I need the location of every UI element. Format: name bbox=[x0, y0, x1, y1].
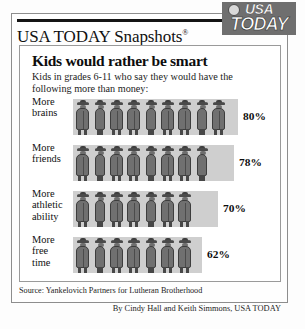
person-in-hat-and-coat-icon bbox=[176, 237, 193, 273]
row-label-line: friends bbox=[32, 153, 74, 164]
registered-mark: ® bbox=[182, 28, 188, 37]
row-value-label: 78% bbox=[239, 156, 262, 168]
chart-row: Morebrains80% bbox=[20, 96, 282, 142]
person-in-hat-and-coat-icon bbox=[159, 191, 176, 227]
usa-today-snapshot-infographic: USA TODAY Snapshots® USA TODAY Kids woul… bbox=[0, 0, 305, 329]
person-in-hat-and-coat-icon bbox=[108, 145, 125, 181]
usa-today-logo: USA TODAY bbox=[222, 2, 296, 35]
pictogram-bar bbox=[73, 145, 234, 181]
chart-headline: Kids would rather be smart bbox=[32, 52, 272, 69]
row-label-line: time bbox=[32, 257, 74, 268]
pictogram-bar bbox=[73, 191, 218, 227]
person-in-hat-and-coat-icon bbox=[176, 191, 193, 227]
person-in-hat-and-coat-icon bbox=[125, 237, 142, 273]
person-in-hat-and-coat-icon bbox=[159, 145, 176, 181]
row-label: Moreathleticability bbox=[32, 188, 74, 222]
person-in-hat-and-coat-icon bbox=[176, 145, 193, 181]
chart-row: Morefreetime62% bbox=[20, 234, 282, 280]
person-in-hat-and-coat-icon bbox=[125, 145, 142, 181]
row-label-line: More bbox=[32, 188, 74, 199]
person-in-hat-and-coat-icon bbox=[142, 237, 159, 273]
person-in-hat-and-coat-icon bbox=[142, 99, 159, 135]
person-in-hat-and-coat-icon bbox=[91, 99, 108, 135]
row-label-line: free bbox=[32, 245, 74, 256]
row-value-label: 62% bbox=[207, 248, 230, 260]
person-in-hat-and-coat-icon bbox=[91, 145, 108, 181]
person-in-hat-and-coat-icon bbox=[91, 237, 108, 273]
row-label-line: More bbox=[32, 142, 74, 153]
byline-note: By Cindy Hall and Keith Simmons, USA TOD… bbox=[19, 304, 281, 314]
row-value-label: 80% bbox=[243, 110, 266, 122]
person-in-hat-and-coat-icon bbox=[193, 99, 210, 135]
person-in-hat-and-coat-icon bbox=[125, 99, 142, 135]
person-in-hat-and-coat-icon bbox=[74, 99, 91, 135]
pictogram-bar bbox=[73, 237, 202, 273]
chart-panel: Kids would rather be smart Kids in grade… bbox=[19, 45, 281, 282]
pictogram-bar bbox=[73, 99, 238, 135]
masthead-title: USA TODAY Snapshots® bbox=[17, 22, 237, 43]
row-label: Morebrains bbox=[32, 96, 74, 119]
person-in-hat-and-coat-icon bbox=[108, 237, 125, 273]
person-in-hat-and-coat-icon bbox=[142, 191, 159, 227]
person-in-hat-and-coat-icon bbox=[74, 145, 91, 181]
row-value-label: 70% bbox=[223, 202, 246, 214]
chart-subtitle: Kids in grades 6-11 who say they would h… bbox=[32, 71, 270, 94]
person-in-hat-and-coat-icon bbox=[210, 99, 227, 135]
pictogram-rows: Morebrains80%Morefriends78%Moreathletica… bbox=[20, 96, 282, 280]
row-label-line: More bbox=[32, 96, 74, 107]
logo-today-text: TODAY bbox=[222, 15, 296, 34]
masthead-title-text: USA TODAY Snapshots bbox=[17, 27, 182, 46]
person-in-hat-and-coat-icon bbox=[108, 99, 125, 135]
person-in-hat-and-coat-icon bbox=[108, 191, 125, 227]
person-in-hat-and-coat-icon bbox=[74, 237, 91, 273]
person-in-hat-and-coat-icon bbox=[74, 191, 91, 227]
person-in-hat-and-coat-icon bbox=[159, 99, 176, 135]
chart-row: Morefriends78% bbox=[20, 142, 282, 188]
row-label: Morefreetime bbox=[32, 234, 74, 268]
chart-row: Moreathleticability70% bbox=[20, 188, 282, 234]
row-label-line: athletic bbox=[32, 199, 74, 210]
source-note: Source: Yankelovich Partners for Luthera… bbox=[19, 286, 281, 296]
row-label-line: ability bbox=[32, 211, 74, 222]
row-label: Morefriends bbox=[32, 142, 74, 165]
person-in-hat-and-coat-icon bbox=[125, 191, 142, 227]
person-in-hat-and-coat-icon bbox=[193, 145, 210, 181]
person-in-hat-and-coat-icon bbox=[91, 191, 108, 227]
person-in-hat-and-coat-icon bbox=[159, 237, 176, 273]
row-label-line: More bbox=[32, 234, 74, 245]
person-in-hat-and-coat-icon bbox=[176, 99, 193, 135]
row-label-line: brains bbox=[32, 107, 74, 118]
person-in-hat-and-coat-icon bbox=[142, 145, 159, 181]
